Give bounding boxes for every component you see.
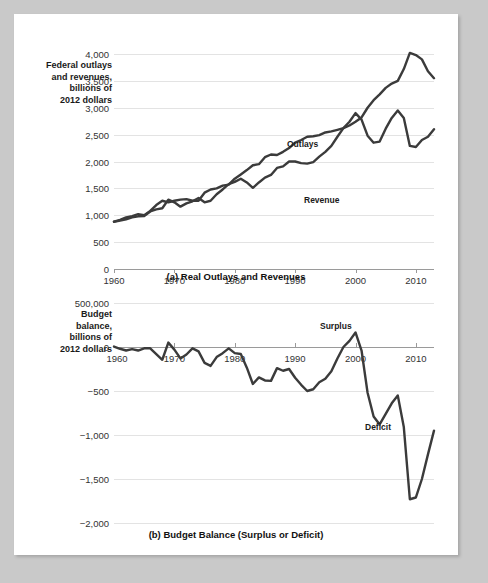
ytick-label: 2,000 bbox=[85, 156, 109, 167]
ytick-label: 4,000 bbox=[85, 49, 109, 60]
ytick-label: 1,500 bbox=[85, 183, 109, 194]
panel-a-series-lines bbox=[114, 54, 434, 269]
ytick-label: −1,500 bbox=[80, 474, 109, 485]
ytick-label: 1,000 bbox=[85, 210, 109, 221]
panel-b-caption: (b) Budget Balance (Surplus or Deficit) bbox=[14, 529, 458, 540]
ytick-label: 2,500 bbox=[85, 129, 109, 140]
ytick-label: 3,500 bbox=[85, 75, 109, 86]
panel-b-axis-title: Budget balance, billions of 2012 dollars bbox=[20, 309, 112, 355]
panel-a-baseline bbox=[114, 269, 434, 270]
panel-a-plot-area: 4,000 3,500 3,000 2,500 2,000 1,500 1,00… bbox=[114, 54, 434, 269]
ytick-label: −1,000 bbox=[80, 430, 109, 441]
ytick-label: −500 bbox=[88, 386, 109, 397]
series-label-outlays: Outlays bbox=[287, 139, 318, 149]
annotation-deficit: Deficit bbox=[365, 422, 391, 432]
ytick-label: 500 bbox=[93, 237, 109, 248]
panel-a-caption: (a) Real Outlays and Revenues bbox=[14, 271, 458, 282]
ytick-label: 500,000 bbox=[75, 298, 109, 309]
annotation-surplus: Surplus bbox=[320, 321, 352, 331]
series-label-revenue: Revenue bbox=[304, 195, 339, 205]
budget-balance-line bbox=[114, 332, 434, 499]
panel-b-plot-area: 500,000 0 −500 −1,000 −1,500 −2,000 1960… bbox=[114, 303, 434, 523]
revenue-line bbox=[114, 110, 434, 221]
ytick-label: −2,000 bbox=[80, 518, 109, 529]
panel-b-series-lines bbox=[114, 303, 434, 523]
chart-panel-budget-balance: Budget balance, billions of 2012 dollars… bbox=[14, 286, 458, 551]
gridline bbox=[114, 523, 434, 524]
ytick-label: 0 bbox=[104, 342, 109, 353]
ytick-label: 3,000 bbox=[85, 102, 109, 113]
page-frame: Federal outlays and revenues, billions o… bbox=[14, 14, 458, 555]
outlays-line bbox=[114, 53, 434, 222]
chart-panel-real-outlays-and-revenues: Federal outlays and revenues, billions o… bbox=[14, 24, 458, 289]
